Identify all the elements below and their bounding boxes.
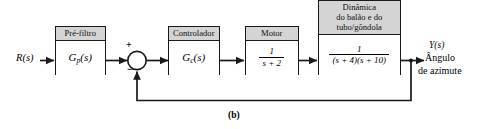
block-prefilter-transfer-function: Gp(s) (56, 41, 105, 75)
block-motor-transfer-function: 1 s + 2 (246, 41, 298, 75)
controller-tf-argument: (s) (194, 51, 206, 63)
feedback-takeoff-node (409, 58, 413, 62)
block-prefilter: Pré-filtro Gp(s) (55, 26, 106, 75)
output-signal-label: Y(s) (429, 40, 444, 50)
motor-tf-denominator: s + 2 (259, 57, 284, 68)
block-controller-transfer-function: Gc(s) (169, 41, 219, 75)
prefilter-tf-argument: (s) (80, 51, 92, 63)
block-motor-header: Motor (246, 27, 298, 41)
summing-junction-plus-sign: + (126, 39, 132, 50)
block-balloon-dynamics-header: Dinâmica do balão e do tubo/gôndola (319, 1, 400, 35)
block-controller: Controlador Gc(s) (168, 26, 220, 75)
block-diagram-figure: R(s) Y(s) Ângulo de azimute + − (b) Pré-… (0, 0, 478, 129)
output-description-line-1: Ângulo (425, 52, 455, 63)
summing-junction-minus-sign: − (127, 62, 134, 77)
input-signal-label: R(s) (16, 52, 34, 63)
block-balloon-dynamics: Dinâmica do balão e do tubo/gôndola 1 (s… (318, 0, 401, 75)
block-motor: Motor 1 s + 2 (245, 26, 299, 75)
output-description-line-2: de azimute (418, 65, 462, 76)
block-prefilter-header: Pré-filtro (56, 27, 105, 41)
motor-tf-numerator: 1 (266, 47, 277, 57)
dynamics-tf-numerator: 1 (354, 45, 365, 55)
figure-caption: (b) (228, 110, 240, 120)
dynamics-tf-denominator: (s + 4)(s + 10) (329, 54, 389, 65)
prefilter-tf-symbol: G (69, 51, 77, 63)
block-controller-header: Controlador (169, 27, 219, 41)
block-balloon-dynamics-transfer-function: 1 (s + 4)(s + 10) (319, 35, 400, 75)
